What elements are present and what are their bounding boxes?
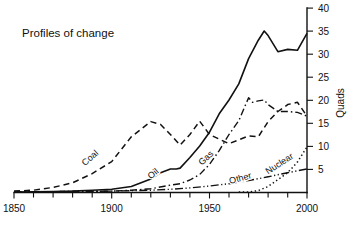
y-tick-label-25: 25 [318, 72, 330, 83]
x-tick-label-2000: 2000 [296, 203, 319, 214]
y-tick-label-30: 30 [318, 49, 330, 60]
x-tick-label-1950: 1950 [198, 203, 221, 214]
chart-figure: Profiles of change 1850 1900 [0, 0, 351, 227]
y-tick-label-10: 10 [318, 141, 330, 152]
y-tick-label-35: 35 [318, 26, 330, 37]
y-tick-label-20: 20 [318, 95, 330, 106]
x-tick-label-1850: 1850 [3, 203, 26, 214]
y-axis-title: Quads [335, 88, 346, 117]
y-tick-label-40: 40 [318, 3, 330, 14]
page-title: Profiles of change [22, 27, 114, 39]
x-tick-label-1900: 1900 [101, 203, 124, 214]
y-tick-label-15: 15 [318, 118, 330, 129]
line-chart: Profiles of change 1850 1900 [0, 0, 351, 227]
y-tick-label-5: 5 [318, 164, 324, 175]
